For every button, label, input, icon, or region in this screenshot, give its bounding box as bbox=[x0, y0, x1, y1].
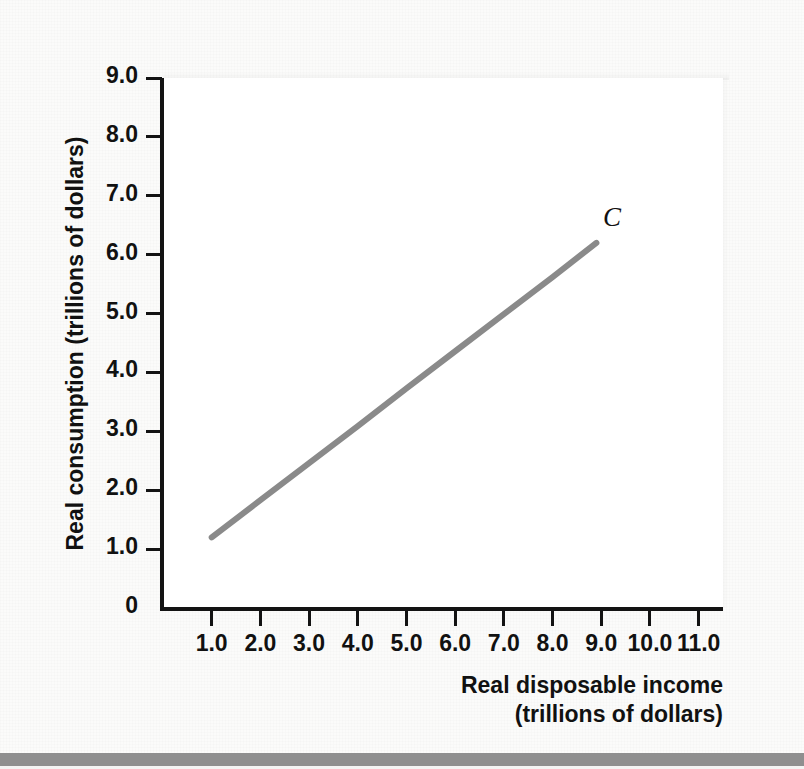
x-axis-tick bbox=[210, 609, 213, 626]
y-axis-title: Real consumption (trillions of dollars) bbox=[62, 84, 89, 604]
x-axis-tick bbox=[600, 609, 603, 626]
y-axis-tick bbox=[146, 135, 162, 138]
y-axis-tick bbox=[146, 371, 162, 374]
footer-rule-bar bbox=[0, 753, 804, 766]
curve-label-c: C bbox=[603, 202, 621, 233]
y-axis-tick bbox=[146, 77, 162, 80]
x-axis-tick bbox=[502, 609, 505, 626]
x-axis-tick bbox=[405, 609, 408, 626]
y-axis-tick bbox=[146, 430, 162, 433]
x-axis-line bbox=[160, 607, 723, 611]
x-axis-tick bbox=[308, 609, 311, 626]
x-axis-title: Real disposable income (trillions of dol… bbox=[323, 671, 723, 730]
consumption-function-figure: 01.02.03.04.05.06.07.08.09.0 1.02.03.04.… bbox=[0, 0, 804, 769]
x-axis-tick bbox=[697, 609, 700, 626]
x-axis-title-line2: (trillions of dollars) bbox=[323, 700, 723, 729]
y-axis-line bbox=[160, 78, 164, 611]
x-axis-tick bbox=[454, 609, 457, 626]
y-axis-tick bbox=[146, 253, 162, 256]
x-axis-tick bbox=[356, 609, 359, 626]
x-axis-tick bbox=[259, 609, 262, 626]
x-axis-tick bbox=[648, 609, 651, 626]
plot-area bbox=[163, 78, 723, 608]
x-axis-title-line1: Real disposable income bbox=[323, 671, 723, 700]
y-axis-tick bbox=[146, 489, 162, 492]
y-axis-tick bbox=[146, 194, 162, 197]
x-axis-tick bbox=[551, 609, 554, 626]
x-axis-tick-label: 11.0 bbox=[664, 630, 734, 657]
y-axis-tick bbox=[146, 312, 162, 315]
y-axis-tick bbox=[146, 548, 162, 551]
